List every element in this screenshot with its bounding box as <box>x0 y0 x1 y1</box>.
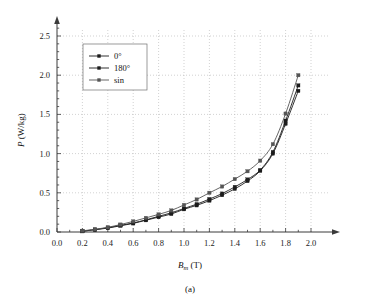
data-point-marker <box>182 207 185 210</box>
x-tick-labels: 0.00.20.40.60.81.01.21.41.61.82.0 <box>52 238 317 248</box>
figure-caption: (a) <box>185 284 195 294</box>
x-tick-label: 1.0 <box>179 238 190 248</box>
x-tick-label: 1.4 <box>229 238 240 248</box>
x-tick-label: 1.2 <box>204 238 215 248</box>
series-3 <box>81 74 300 233</box>
data-point-marker <box>284 119 287 122</box>
data-point-marker <box>284 112 287 115</box>
chart-legend: 0°180°sin <box>83 44 147 90</box>
legend-marker <box>97 78 100 81</box>
legend-label: sin <box>114 75 125 85</box>
data-point-marker <box>208 191 211 194</box>
data-point-marker <box>170 209 173 212</box>
data-point-marker <box>297 84 300 87</box>
data-point-marker <box>144 216 147 219</box>
x-tick-label: 0.2 <box>77 238 88 248</box>
data-point-marker <box>271 150 274 153</box>
y-tick-label: 2.5 <box>39 31 50 41</box>
legend-label: 180° <box>114 63 130 73</box>
data-point-marker <box>93 228 96 231</box>
y-tick-label: 2.0 <box>39 70 50 80</box>
data-point-marker <box>233 177 236 180</box>
x-tick-label: 0.4 <box>102 238 113 248</box>
data-point-marker <box>271 142 274 145</box>
y-tick-label: 1.5 <box>39 109 50 119</box>
data-point-marker <box>208 197 211 200</box>
series-line <box>82 91 298 231</box>
chart-plot: 0.00.20.40.60.81.01.21.41.61.82.0 0.00.5… <box>0 0 370 303</box>
data-point-marker <box>220 185 223 188</box>
series-2 <box>81 84 300 233</box>
data-point-marker <box>132 220 135 223</box>
data-point-marker <box>182 203 185 206</box>
data-point-marker <box>106 226 109 229</box>
data-point-marker <box>195 202 198 205</box>
data-point-marker <box>233 185 236 188</box>
data-point-marker <box>119 223 122 226</box>
x-tick-label: 0.6 <box>128 238 139 248</box>
legend-marker <box>97 66 100 69</box>
data-point-marker <box>246 170 249 173</box>
data-point-marker <box>220 192 223 195</box>
legend-label: 0° <box>114 51 122 61</box>
y-tick-label: 0.0 <box>39 227 50 237</box>
data-point-marker <box>157 213 160 216</box>
data-point-marker <box>259 168 262 171</box>
data-point-marker <box>195 198 198 201</box>
x-tick-label: 1.8 <box>280 238 291 248</box>
x-tick-label: 0.0 <box>52 238 63 248</box>
data-point-marker <box>81 229 84 232</box>
y-axis-title: P (W/kg) <box>16 113 26 148</box>
data-series-layer <box>81 74 300 233</box>
series-line <box>82 85 298 231</box>
data-point-marker <box>259 159 262 162</box>
figure-container: 0.00.20.40.60.81.01.21.41.61.82.0 0.00.5… <box>0 0 370 303</box>
y-tick-label: 0.5 <box>39 188 50 198</box>
y-tick-label: 1.0 <box>39 149 50 159</box>
y-axis-arrow <box>54 16 60 24</box>
x-tick-label: 2.0 <box>306 238 317 248</box>
data-point-marker <box>246 178 249 181</box>
x-axis-title: Bm (T) <box>178 260 202 271</box>
y-tick-labels: 0.00.51.01.52.02.5 <box>39 31 50 237</box>
x-tick-label: 0.8 <box>153 238 164 248</box>
x-axis-arrow <box>332 229 340 235</box>
x-tick-label: 1.6 <box>255 238 266 248</box>
legend-marker <box>97 54 100 57</box>
data-point-marker <box>297 74 300 77</box>
